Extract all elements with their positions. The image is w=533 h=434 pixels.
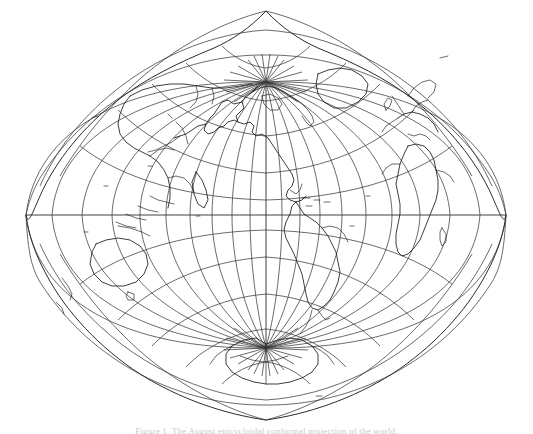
map-background bbox=[0, 0, 533, 434]
world-map-svg bbox=[0, 0, 533, 434]
map-figure: Figure 1. The August epicycloidal confor… bbox=[0, 0, 533, 434]
figure-caption: Figure 1. The August epicycloidal confor… bbox=[0, 426, 533, 434]
